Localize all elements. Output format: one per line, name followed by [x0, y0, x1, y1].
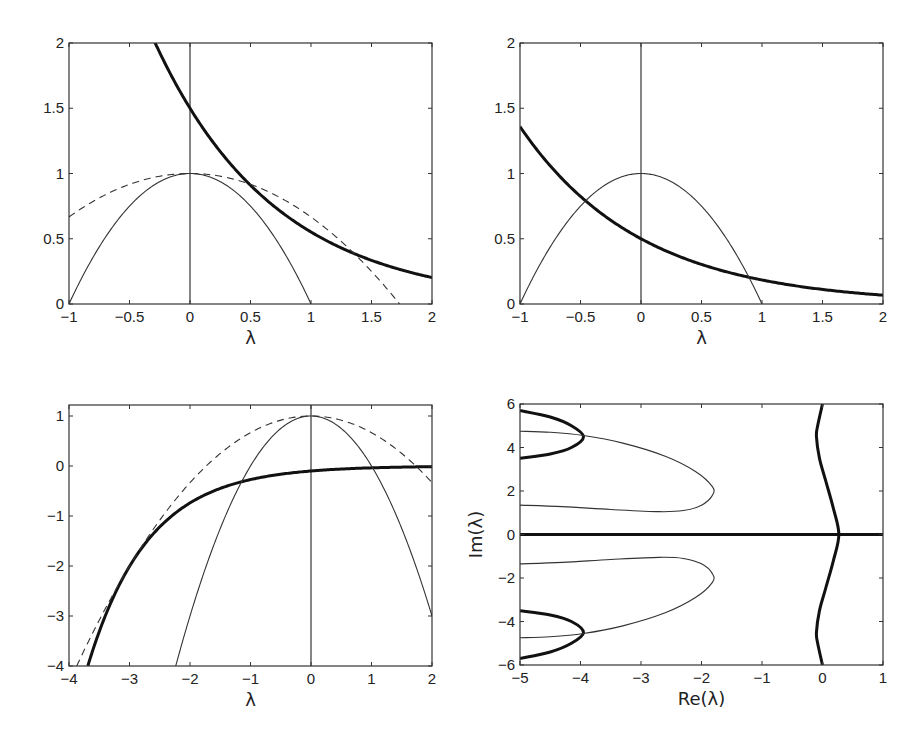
axes-frame	[69, 405, 432, 666]
x-tick-label: −4	[572, 669, 589, 686]
plot-area	[520, 43, 883, 304]
y-tick-label: −2	[498, 569, 515, 586]
y-tick-label: 0	[56, 457, 64, 474]
x-tick-label: 1	[307, 308, 315, 325]
plot-area	[69, 40, 432, 304]
bold-curve	[88, 467, 432, 666]
y-tick-label: 6	[507, 395, 515, 412]
plot-bottom-left: −4−3−2−1012−4−3−2−101λ	[47, 405, 436, 710]
y-tick-label: 1	[507, 165, 515, 182]
plot-area	[77, 405, 432, 666]
thin-curve	[176, 416, 432, 666]
bold-curve	[520, 127, 883, 296]
x-tick-label: 1	[367, 670, 375, 687]
y-tick-label: 0.5	[494, 230, 515, 247]
x-tick-label: 1.5	[812, 308, 833, 325]
y-tick-label: 2	[56, 34, 64, 51]
x-tick-label: 2	[428, 670, 436, 687]
y-tick-label: 1.5	[43, 99, 64, 116]
x-tick-label: 2	[879, 308, 887, 325]
plot-area	[520, 404, 883, 665]
dashed-curve	[77, 416, 432, 666]
y-tick-label: 0	[507, 526, 515, 543]
y-tick-label: 0	[507, 295, 515, 312]
y-tick-label: 2	[507, 34, 515, 51]
x-tick-label: 1	[879, 669, 887, 686]
y-axis-label: Im(λ)	[465, 511, 486, 559]
x-tick-label: 2	[428, 308, 436, 325]
x-axis-label: λ	[245, 689, 256, 710]
y-tick-label: 1	[56, 407, 64, 424]
x-axis-label: λ	[696, 327, 707, 348]
x-tick-label: −1	[242, 670, 259, 687]
x-tick-label: −3	[632, 669, 649, 686]
x-axis-label: λ	[245, 327, 256, 348]
y-tick-label: −2	[47, 557, 64, 574]
figure: −1−0.500.511.5200.511.52λ −1−0.500.511.5…	[0, 0, 918, 749]
y-tick-label: −3	[47, 607, 64, 624]
x-tick-label: 0	[186, 308, 194, 325]
x-tick-label: 0	[307, 670, 315, 687]
y-tick-label: 2	[507, 482, 515, 499]
y-tick-label: 0	[56, 295, 64, 312]
axes-frame	[69, 43, 432, 304]
bold-curve	[154, 40, 432, 278]
x-tick-label: −0.5	[115, 308, 145, 325]
dashed-curve	[69, 174, 400, 305]
x-axis-label: Re(λ)	[678, 688, 725, 709]
x-tick-label: 0	[818, 669, 826, 686]
x-tick-label: −2	[181, 670, 198, 687]
y-tick-label: 0.5	[43, 230, 64, 247]
y-tick-label: 1	[56, 165, 64, 182]
x-tick-label: 1	[758, 308, 766, 325]
y-tick-label: −1	[47, 507, 64, 524]
x-tick-label: 0.5	[240, 308, 261, 325]
y-tick-label: 4	[507, 439, 515, 456]
x-tick-label: 0	[637, 308, 645, 325]
y-tick-label: −4	[498, 613, 515, 630]
plot-top-left: −1−0.500.511.5200.511.52λ	[43, 34, 436, 348]
thin-curve	[520, 431, 714, 512]
plot-top-right: −1−0.500.511.5200.511.52λ	[494, 34, 887, 348]
x-tick-label: −3	[121, 670, 138, 687]
x-tick-label: 0.5	[691, 308, 712, 325]
y-tick-label: −4	[47, 657, 64, 674]
thin-curve	[520, 557, 714, 638]
x-tick-label: −2	[693, 669, 710, 686]
y-tick-label: −6	[498, 656, 515, 673]
y-tick-label: 1.5	[494, 99, 515, 116]
x-tick-label: −0.5	[566, 308, 596, 325]
x-tick-label: 1.5	[361, 308, 382, 325]
x-tick-label: −1	[753, 669, 770, 686]
plot-bottom-right: −5−4−3−2−101−6−4−20246Re(λ)Im(λ)	[465, 395, 887, 709]
